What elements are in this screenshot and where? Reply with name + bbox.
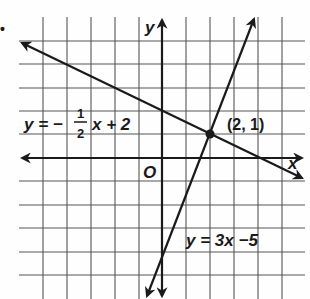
intersection-label: (2, 1) (227, 116, 264, 133)
intersection-point (206, 130, 215, 139)
x-axis-label: x (287, 154, 299, 173)
equation-2-label: y = 3x −5 (185, 231, 258, 250)
origin-label: O (143, 163, 156, 182)
coordinate-graph: • y x O (2, 1) y = − 1 (0, 0, 310, 299)
problem-bullet: • (0, 21, 5, 37)
svg-text:1: 1 (77, 106, 84, 121)
svg-text:y = −: y = − (23, 115, 63, 134)
svg-text:x + 2: x + 2 (91, 115, 131, 134)
svg-text:2: 2 (77, 126, 84, 141)
y-axis-label: y (144, 18, 156, 37)
